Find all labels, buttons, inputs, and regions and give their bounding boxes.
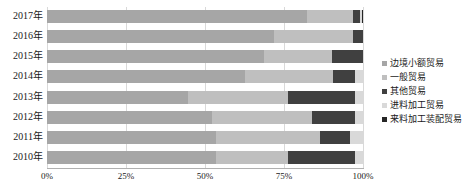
legend-swatch-icon [382, 103, 387, 108]
category-label: 2016年 [0, 31, 43, 41]
legend-label: 来料加工装配贸易 [390, 115, 462, 124]
bar-row [47, 50, 363, 63]
bar-segment [264, 50, 332, 63]
category-label: 2015年 [0, 51, 43, 61]
legend-swatch-icon [382, 89, 387, 94]
bar-segment [333, 70, 355, 83]
category-label: 2017年 [0, 11, 43, 21]
x-tick-label: 100% [353, 172, 374, 181]
bar-segment [47, 131, 216, 144]
bar-segment [245, 70, 333, 83]
legend-item[interactable]: 其他贸易 [382, 85, 476, 98]
bar-segment [47, 91, 188, 104]
bar-segment [47, 30, 274, 43]
bar-segment [47, 151, 216, 164]
bar-segment [47, 70, 245, 83]
legend-label: 一般贸易 [390, 73, 426, 82]
bar-segment [216, 131, 320, 144]
bar-segment [274, 30, 353, 43]
bar-segment [288, 151, 355, 164]
legend-item[interactable]: 进料加工贸易 [382, 99, 476, 112]
bar-segment [288, 91, 355, 104]
x-tick-label: 50% [197, 172, 214, 181]
bar-row [47, 91, 363, 104]
legend-label: 边境小额贸易 [390, 59, 444, 68]
legend-item[interactable]: 一般贸易 [382, 71, 476, 84]
x-tick-label: 25% [118, 172, 135, 181]
bar-row [47, 70, 363, 83]
stacked-bar-chart: 2017年2016年2015年2014年2013年2012年2011年2010年… [0, 0, 476, 196]
bar-row [47, 10, 363, 23]
bar-segment [188, 91, 288, 104]
bar-row [47, 151, 363, 164]
category-label: 2011年 [0, 132, 43, 142]
gridline-100% [363, 7, 364, 168]
x-tick-label: 0% [41, 172, 53, 181]
bar-segment [355, 151, 363, 164]
bar-segment [353, 30, 363, 43]
bar-segment [307, 10, 353, 23]
bar-segment [332, 50, 363, 63]
category-label: 2014年 [0, 71, 43, 81]
bar-segment [350, 131, 363, 144]
bar-segment [47, 10, 307, 23]
legend-swatch-icon [382, 75, 387, 80]
legend-label: 进料加工贸易 [390, 101, 444, 110]
bar-row [47, 30, 363, 43]
legend-item[interactable]: 边境小额贸易 [382, 57, 476, 70]
legend-swatch-icon [382, 117, 387, 122]
bar-segment [355, 91, 363, 104]
bar-segment [353, 10, 360, 23]
bar-segment [216, 151, 288, 164]
bar-segment [47, 111, 212, 124]
bar-segment [355, 70, 363, 83]
bar-segment [312, 111, 355, 124]
plot-area [47, 7, 363, 168]
bar-segment [355, 111, 363, 124]
x-tick-label: 75% [276, 172, 293, 181]
bar-segment [212, 111, 312, 124]
bar-row [47, 111, 363, 124]
bar-segment [47, 50, 264, 63]
legend: 边境小额贸易一般贸易其他贸易进料加工贸易来料加工装配贸易 [382, 57, 476, 127]
category-label: 2012年 [0, 112, 43, 122]
bar-segment [320, 131, 350, 144]
legend-item[interactable]: 来料加工装配贸易 [382, 113, 476, 126]
bar-segment [362, 10, 363, 23]
legend-label: 其他贸易 [390, 87, 426, 96]
bar-row [47, 131, 363, 144]
legend-swatch-icon [382, 61, 387, 66]
category-label: 2013年 [0, 92, 43, 102]
x-axis-line [47, 168, 364, 169]
category-label: 2010年 [0, 152, 43, 162]
